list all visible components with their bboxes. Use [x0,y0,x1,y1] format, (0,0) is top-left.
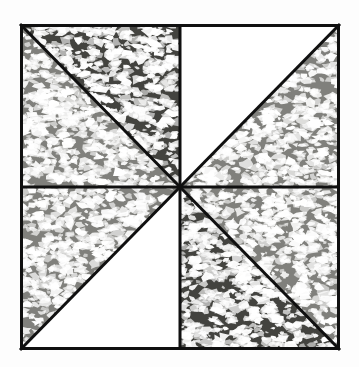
pinwheel-diagram [0,0,359,367]
figure-root [0,0,359,367]
divider-line-group [20,24,340,350]
